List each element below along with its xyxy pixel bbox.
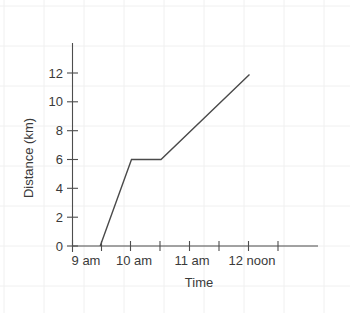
x-axis-title: Time — [185, 275, 213, 290]
plot-area: 0 2 4 6 8 10 12 9 am 10 am 11 am 12 noon… — [0, 0, 350, 313]
journey-line — [100, 74, 249, 246]
x-tick-label-11am: 11 am — [174, 253, 209, 268]
distance-time-chart: 0 2 4 6 8 10 12 9 am 10 am 11 am 12 noon… — [0, 0, 350, 313]
y-tick-label-8: 8 — [56, 123, 63, 138]
y-axis-title: Distance (km) — [21, 118, 36, 198]
x-tick-label-12noon: 12 noon — [229, 253, 276, 268]
y-tick-label-2: 2 — [56, 210, 63, 225]
y-tick-label-4: 4 — [56, 181, 63, 196]
y-tick-label-0: 0 — [56, 239, 63, 254]
x-tick-label-9am: 9 am — [72, 253, 101, 268]
x-tick-label-10am: 10 am — [116, 253, 152, 268]
y-tick-label-6: 6 — [56, 152, 63, 167]
y-tick-label-10: 10 — [49, 94, 63, 109]
y-tick-label-12: 12 — [49, 66, 63, 81]
